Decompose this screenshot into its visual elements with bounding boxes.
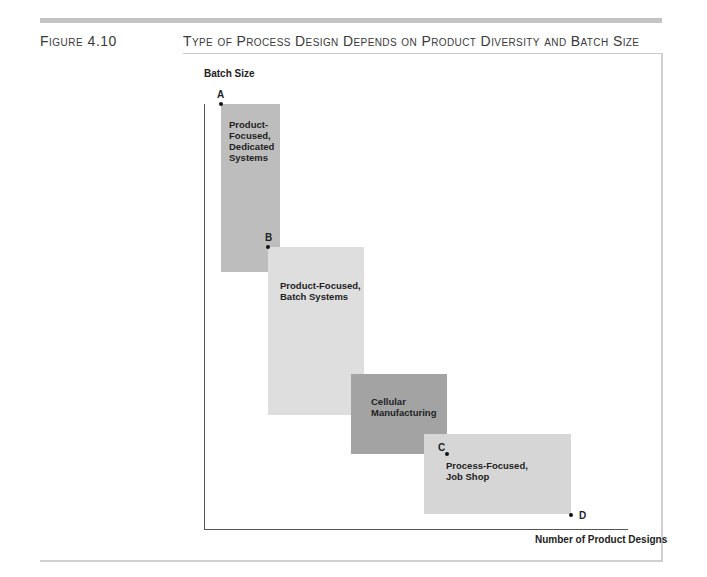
header-rule	[40, 18, 662, 23]
x-axis	[204, 529, 628, 530]
point-d-marker	[569, 513, 573, 517]
point-a-marker	[219, 102, 223, 106]
y-axis	[204, 104, 205, 529]
region-process-focused-job-shop: Process-Focused, Job Shop	[424, 434, 571, 514]
frame-top-border	[183, 53, 662, 54]
x-axis-label: Number of Product Designs	[535, 534, 667, 545]
region-label: Cellular Manufacturing	[371, 396, 436, 418]
point-d-label: D	[579, 510, 586, 521]
region-label: Product- Focused, Dedicated Systems	[229, 119, 274, 163]
frame-bottom-border	[40, 560, 663, 562]
figure-number: Figure 4.10	[40, 33, 117, 49]
point-c-label: C	[438, 442, 445, 453]
frame-right-border	[661, 53, 663, 561]
figure-title: Type of Process Design Depends on Produc…	[183, 33, 639, 49]
region-label: Process-Focused, Job Shop	[446, 460, 528, 482]
point-b-label: B	[265, 232, 272, 243]
region-product-focused-batch: Product-Focused, Batch Systems	[268, 247, 364, 415]
point-b-marker	[266, 245, 270, 249]
region-label: Product-Focused, Batch Systems	[280, 280, 361, 302]
point-c-marker	[445, 452, 449, 456]
point-a-label: A	[217, 89, 224, 100]
y-axis-label: Batch Size	[204, 68, 255, 79]
